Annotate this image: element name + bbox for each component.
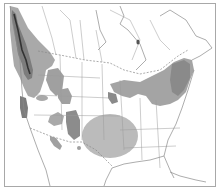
range-nm-dot <box>77 146 81 150</box>
range-southern-plains <box>82 114 138 158</box>
range-map <box>0 0 218 190</box>
north-america-map <box>0 0 218 190</box>
range-oregon-patch <box>36 95 48 101</box>
